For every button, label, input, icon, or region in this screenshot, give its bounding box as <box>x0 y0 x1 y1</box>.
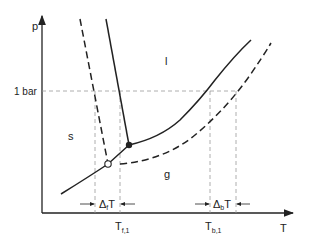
region-liquid-label: l <box>165 55 167 67</box>
pure-vaporization-curve <box>129 40 251 145</box>
pure-triple-point <box>126 142 132 148</box>
solution-melting-curve <box>80 19 108 164</box>
region-solid-label: s <box>68 130 74 142</box>
pure-melting-curve <box>106 19 129 145</box>
pressure-tick-label: 1 bar <box>14 86 37 97</box>
boiling-temperature-label: Tb,1 <box>205 220 222 234</box>
region-gas-label: g <box>164 168 170 180</box>
freezing-point-depression-annotation: ΔfT <box>80 198 135 211</box>
solution-triple-point <box>105 161 111 167</box>
phase-diagram: p T 1 bar s l g ΔfT ΔbT Tf,1 <box>0 0 321 241</box>
x-axis-label: T <box>280 222 287 234</box>
boiling-point-elevation-annotation: ΔbT <box>195 198 250 211</box>
freezing-temperature-label: Tf,1 <box>115 220 130 234</box>
svg-text:ΔbT: ΔbT <box>213 198 231 211</box>
y-axis-label: p <box>32 20 38 32</box>
svg-text:ΔfT: ΔfT <box>99 198 115 211</box>
